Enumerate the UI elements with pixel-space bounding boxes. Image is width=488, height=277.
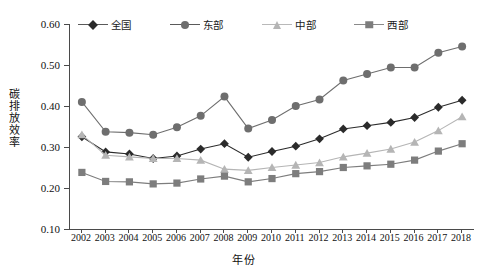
data-point-东部[interactable]: [102, 128, 110, 136]
data-point-东部[interactable]: [173, 123, 181, 131]
x-tick-label: 2011: [278, 232, 312, 243]
x-tick-label: 2010: [254, 232, 288, 243]
x-tick-label: 2004: [111, 232, 145, 243]
data-point-东部[interactable]: [339, 77, 347, 85]
x-tick-label: 2002: [64, 232, 98, 243]
data-point-西部[interactable]: [150, 180, 157, 187]
data-point-东部[interactable]: [78, 98, 86, 106]
x-tick-label: 2009: [230, 232, 264, 243]
y-tick-label: 0.50: [24, 59, 60, 71]
data-point-全国[interactable]: [268, 147, 277, 156]
y-axis-label: 碳排放效率: [8, 88, 22, 148]
data-point-西部[interactable]: [197, 175, 204, 182]
x-tick-label: 2006: [159, 232, 193, 243]
data-point-全国[interactable]: [434, 103, 443, 112]
data-point-全国[interactable]: [196, 145, 205, 154]
x-tick-label: 2017: [420, 232, 454, 243]
x-tick-label: 2005: [135, 232, 169, 243]
y-tick-label: 0.30: [24, 141, 60, 153]
y-tick-label: 0.40: [24, 100, 60, 112]
y-tick-label: 0.60: [24, 18, 60, 30]
data-point-西部[interactable]: [363, 162, 370, 169]
x-tick-label: 2016: [397, 232, 431, 243]
data-point-西部[interactable]: [435, 148, 442, 155]
y-tick-label: 0.20: [24, 182, 60, 194]
data-point-全国[interactable]: [363, 121, 372, 130]
data-point-中部[interactable]: [410, 138, 419, 146]
series-svg: [70, 24, 474, 229]
data-point-西部[interactable]: [245, 178, 252, 185]
x-tick-label: 2008: [206, 232, 240, 243]
x-tick-label: 2007: [183, 232, 217, 243]
data-point-东部[interactable]: [363, 70, 371, 78]
data-point-西部[interactable]: [316, 168, 323, 175]
data-point-东部[interactable]: [125, 129, 133, 137]
data-point-东部[interactable]: [268, 116, 276, 124]
data-point-东部[interactable]: [411, 63, 419, 71]
x-axis-label: 年份: [0, 251, 488, 267]
data-point-东部[interactable]: [387, 63, 395, 71]
data-point-全国[interactable]: [410, 113, 419, 122]
y-tick-label: 0.10: [24, 223, 60, 235]
data-point-中部[interactable]: [77, 131, 86, 139]
data-point-中部[interactable]: [458, 112, 467, 120]
x-tick-label: 2013: [325, 232, 359, 243]
data-point-西部[interactable]: [102, 178, 109, 185]
data-point-东部[interactable]: [244, 125, 252, 133]
x-tick-label: 2018: [444, 232, 478, 243]
data-point-全国[interactable]: [458, 96, 467, 105]
data-point-西部[interactable]: [268, 175, 275, 182]
data-point-东部[interactable]: [220, 93, 228, 101]
carbon-efficiency-line-chart: 全国 东部 中部 西部 0.100.200.300.400.500.602002…: [0, 0, 488, 277]
data-point-西部[interactable]: [292, 170, 299, 177]
data-point-全国[interactable]: [386, 118, 395, 127]
data-point-全国[interactable]: [291, 142, 300, 151]
data-point-全国[interactable]: [220, 139, 229, 148]
data-point-西部[interactable]: [411, 157, 418, 164]
data-point-西部[interactable]: [78, 169, 85, 176]
x-tick-label: 2014: [349, 232, 383, 243]
data-point-东部[interactable]: [149, 131, 157, 139]
data-point-西部[interactable]: [221, 173, 228, 180]
data-point-中部[interactable]: [386, 145, 395, 153]
data-point-全国[interactable]: [244, 153, 253, 162]
data-point-东部[interactable]: [434, 49, 442, 57]
data-point-西部[interactable]: [340, 164, 347, 171]
data-point-全国[interactable]: [339, 125, 348, 134]
data-point-西部[interactable]: [459, 140, 466, 147]
x-tick-label: 2012: [302, 232, 336, 243]
data-point-西部[interactable]: [126, 178, 133, 185]
data-point-全国[interactable]: [315, 134, 324, 143]
data-point-东部[interactable]: [292, 102, 300, 110]
data-point-东部[interactable]: [458, 43, 466, 51]
data-point-西部[interactable]: [173, 179, 180, 186]
plot-area: [69, 24, 474, 230]
data-point-中部[interactable]: [434, 126, 443, 134]
data-point-西部[interactable]: [387, 161, 394, 168]
x-tick-label: 2015: [373, 232, 407, 243]
x-tick-label: 2003: [88, 232, 122, 243]
data-point-东部[interactable]: [316, 95, 324, 103]
data-point-东部[interactable]: [197, 112, 205, 120]
